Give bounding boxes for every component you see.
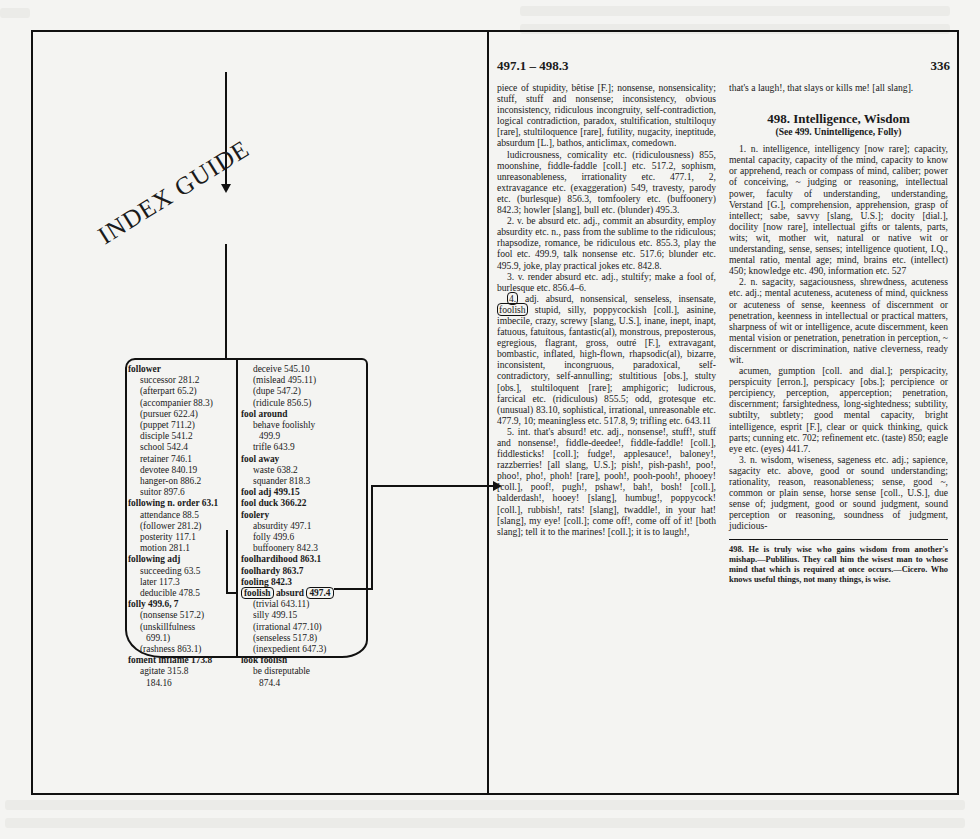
paragraph: 5. int. that's absurd! etc. adj., nonsen…	[497, 426, 716, 537]
index-entry: folly 499.6	[241, 532, 334, 543]
connector-line-left-vertical	[226, 530, 228, 592]
index-entry: trifle 643.9	[241, 442, 334, 453]
page-right-column: that's a laugh!, that slays or kills me!…	[729, 82, 948, 585]
boxed-index-reference: 497.4	[306, 587, 333, 599]
index-right-column: deceive 545.10(mislead 495.11)(dupe 547.…	[241, 364, 334, 689]
connector-line	[334, 588, 372, 590]
index-entry: (rashness 863.1)	[128, 644, 218, 655]
index-entry: (accompanier 88.3)	[128, 398, 218, 409]
index-entry: squander 818.3	[241, 476, 334, 487]
index-entry: buffoonery 842.3	[241, 543, 334, 554]
paragraph: acumen, gumption [coll. and dial.]; pers…	[729, 365, 948, 454]
index-entry: foolhardihood 863.1	[241, 554, 334, 565]
index-entry: look foolish	[241, 655, 334, 666]
paragraph-adj-4: 4. adj. absurd, nonsensical, senseless, …	[497, 293, 716, 426]
arrow-down-icon	[221, 184, 231, 193]
page-range: 497.1 – 498.3	[497, 58, 569, 74]
index-entry: following n. order 63.1	[128, 498, 218, 509]
paragraph: that's a laugh!, that slays or kills me!…	[729, 82, 948, 93]
index-entry: follower	[128, 364, 218, 375]
index-entry: fool adj 499.15	[241, 487, 334, 498]
paragraph: 3. v. render absurd etc. adj., stultify;…	[497, 271, 716, 293]
index-entry: be disreputable	[241, 666, 334, 677]
arrow-line-mid	[225, 244, 227, 358]
index-entry: behave foolishly	[241, 420, 334, 431]
index-entry: 499.9	[241, 431, 334, 442]
index-entry: disciple 541.2	[128, 431, 218, 442]
connector-line-top	[371, 485, 487, 487]
index-entry: succeeding 63.5	[128, 566, 218, 577]
page-left-column: piece of stupidity, bêtise [F.]; nonsens…	[497, 82, 716, 537]
index-entry: (follower 281.2)	[128, 521, 218, 532]
paragraph: 2. n. sagacity, sagaciousness, shrewdnes…	[729, 276, 948, 365]
index-entry: (afterpart 65.2)	[128, 386, 218, 397]
footnote: 498. He is truly wise who gains wisdom f…	[729, 545, 948, 585]
index-entry: deducible 478.5	[128, 588, 218, 599]
index-entry: successor 281.2	[128, 375, 218, 386]
footnote-rule	[729, 539, 948, 540]
index-card-divider	[236, 358, 238, 658]
paragraph: piece of stupidity, bêtise [F.]; nonsens…	[497, 82, 716, 149]
index-entry: attendance 88.5	[128, 510, 218, 521]
connector-line-left	[226, 592, 236, 594]
index-entry: silly 499.15	[241, 610, 334, 621]
index-entry: 184.16	[128, 678, 218, 689]
index-entry: (unskillfulness	[128, 622, 218, 633]
section-cross-reference: (See 499. Unintelligence, Folly)	[729, 126, 948, 137]
index-entry: motion 281.1	[128, 543, 218, 554]
index-entry: hanger-on 886.2	[128, 476, 218, 487]
index-entry: (trivial 643.11)	[241, 599, 334, 610]
index-entry: fool away	[241, 454, 334, 465]
index-entry: (mislead 495.11)	[241, 375, 334, 386]
index-entry: suitor 897.6	[128, 487, 218, 498]
paragraph: 1. n. intelligence, intelligency [now ra…	[729, 143, 948, 276]
index-entry: (pursuer 622.4)	[128, 409, 218, 420]
index-entry: (dupe 547.2)	[241, 386, 334, 397]
index-entry: agitate 315.8	[128, 666, 218, 677]
index-entry: foment inflame 173.8	[128, 655, 218, 666]
index-entry: waste 638.2	[241, 465, 334, 476]
index-entry: devotee 840.19	[128, 465, 218, 476]
paragraph: ludicrousness, comicality etc. (ridiculo…	[497, 149, 716, 216]
index-entry: posterity 117.1	[128, 532, 218, 543]
index-entry: following adj	[128, 554, 218, 565]
index-entry: 874.4	[241, 678, 334, 689]
index-entry: (senseless 517.8)	[241, 633, 334, 644]
index-entry: (nonsense 517.2)	[128, 610, 218, 621]
index-entry: foolery	[241, 510, 334, 521]
index-entry: foolish absurd 497.4	[241, 588, 334, 599]
index-entry: folly 499.6, 7	[128, 599, 218, 610]
index-entry: (puppet 711.2)	[128, 420, 218, 431]
index-entry: fool duck 366.22	[241, 498, 334, 509]
thesaurus-page: 497.1 – 498.3 336 piece of stupidity, bê…	[497, 58, 952, 788]
index-entry: (inexpedient 647.3)	[241, 644, 334, 655]
index-entry: deceive 545.10	[241, 364, 334, 375]
index-entry: 699.1)	[128, 633, 218, 644]
boxed-index-word: foolish	[241, 587, 274, 599]
panel-divider	[487, 31, 489, 795]
connector-line-vertical	[371, 485, 373, 590]
index-entry: later 117.3	[128, 577, 218, 588]
section-title: 498. Intelligence, Wisdom	[729, 111, 948, 126]
index-entry: (ridicule 856.5)	[241, 398, 334, 409]
boxed-word-foolish: foolish	[497, 303, 528, 316]
paragraph: 3. n. wisdom, wiseness, sageness etc. ad…	[729, 454, 948, 532]
index-left-column: followersuccessor 281.2(afterpart 65.2)(…	[128, 364, 218, 689]
page-number: 336	[931, 58, 951, 74]
index-entry: (irrational 477.10)	[241, 622, 334, 633]
index-entry: absurdity 497.1	[241, 521, 334, 532]
index-entry: foolhardy 863.7	[241, 566, 334, 577]
index-entry: school 542.4	[128, 442, 218, 453]
index-entry: fool around	[241, 409, 334, 420]
index-entry: retainer 746.1	[128, 454, 218, 465]
paragraph: 2. v. be absurd etc. adj., commit an abs…	[497, 215, 716, 270]
